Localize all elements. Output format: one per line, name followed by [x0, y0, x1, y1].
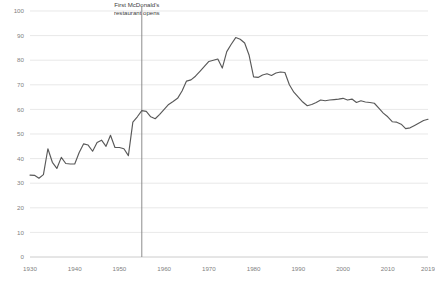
x-tick-label: 1970 — [202, 265, 216, 272]
x-axis-tick-labels: 1930194019501960197019801990200020102019 — [23, 265, 435, 272]
data-series-line — [30, 38, 428, 179]
y-tick-label: 30 — [17, 179, 24, 186]
y-tick-label: 70 — [17, 81, 24, 88]
y-tick-label: 90 — [17, 32, 24, 39]
y-tick-label: 0 — [21, 253, 25, 260]
x-tick-label: 2010 — [381, 265, 395, 272]
line-chart: 0102030405060708090100 19301940195019601… — [0, 0, 435, 286]
x-tick-label: 1980 — [247, 265, 261, 272]
y-axis-tick-labels: 0102030405060708090100 — [14, 7, 25, 260]
x-tick-label: 1960 — [157, 265, 171, 272]
y-tick-label: 100 — [14, 7, 25, 14]
y-tick-label: 80 — [17, 56, 24, 63]
x-tick-label: 2000 — [336, 265, 350, 272]
x-tick-label: 1990 — [291, 265, 305, 272]
y-tick-label: 40 — [17, 155, 24, 162]
y-tick-label: 50 — [17, 130, 24, 137]
x-tick-label: 1950 — [113, 265, 127, 272]
chart-container: 0102030405060708090100 19301940195019601… — [0, 0, 435, 286]
y-tick-label: 20 — [17, 204, 24, 211]
first-mcdonalds-marker-label-line1: First McDonald's — [114, 1, 159, 8]
x-tick-label: 1930 — [23, 265, 37, 272]
x-tick-label: 2019 — [421, 265, 435, 272]
y-tick-label: 60 — [17, 106, 24, 113]
x-tick-label: 1940 — [68, 265, 82, 272]
annotation-text-group: First McDonald'srestaurant opens — [114, 1, 160, 16]
y-tick-label: 10 — [17, 229, 24, 236]
first-mcdonalds-marker-label-line2: restaurant opens — [114, 9, 160, 16]
